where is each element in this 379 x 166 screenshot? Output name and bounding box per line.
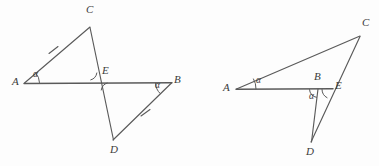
angle-label-alpha-B-right: α (309, 92, 314, 102)
vertex-label-D-left: D (110, 144, 118, 155)
angle-label-alpha-B-left: α (155, 81, 160, 91)
tick-on-AC-left (49, 47, 58, 54)
angle-label-alpha-A-left: α (33, 70, 38, 80)
segment-AB-left (24, 83, 172, 84)
vertex-label-A-right: A (223, 82, 230, 93)
vertex-label-E-left: E (102, 65, 109, 76)
vertex-label-B-right: B (314, 71, 321, 82)
vertex-label-C-right: C (362, 17, 369, 28)
left-figure-group (24, 27, 172, 140)
segment-DB-left (113, 83, 172, 140)
geometry-figure-canvas: A B C D E α α A B C D E α α (0, 0, 379, 166)
tick-on-DB-left (141, 110, 150, 117)
vertex-label-D-right: D (306, 146, 314, 157)
vertex-label-B-left: B (174, 74, 181, 85)
vertex-label-E-right: E (335, 80, 342, 91)
geometry-vector-layer (0, 0, 379, 166)
vertex-label-C-left: C (86, 4, 93, 15)
vertex-label-A-left: A (12, 76, 19, 87)
arc-at-E-right (322, 89, 327, 98)
arc-at-E-upper-left (90, 73, 97, 80)
angle-label-alpha-A-right: α (256, 76, 261, 86)
